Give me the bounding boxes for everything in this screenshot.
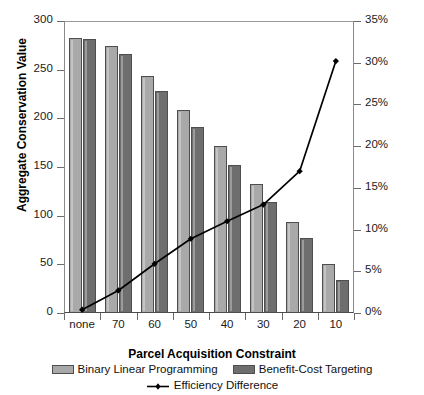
y-axis-right-tick-mark bbox=[354, 21, 361, 22]
y-axis-right-tick-mark bbox=[354, 230, 361, 231]
x-axis-category-label: 70 bbox=[100, 318, 136, 330]
legend-item-efficiency-difference: Efficiency Difference bbox=[146, 378, 278, 393]
legend-item-benefit-cost-targeting: Benefit-Cost Targeting bbox=[233, 362, 373, 377]
line-path bbox=[82, 61, 336, 310]
x-axis-tick-mark bbox=[137, 313, 138, 320]
x-axis-category-label: 20 bbox=[282, 318, 318, 330]
x-axis-category-label: 60 bbox=[137, 318, 173, 330]
legend-swatch-dark-icon bbox=[233, 365, 255, 374]
legend-label-benefit-cost-targeting: Benefit-Cost Targeting bbox=[259, 364, 373, 376]
y-axis-left-tick-mark bbox=[57, 264, 64, 265]
y-axis-left-tick-label: 0 bbox=[47, 305, 54, 317]
x-axis-tick-mark bbox=[100, 313, 101, 320]
y-axis-left-tick-label: 100 bbox=[34, 208, 54, 220]
y-axis-left-tick-label: 150 bbox=[34, 159, 54, 171]
x-axis-tick-mark bbox=[245, 313, 246, 320]
y-axis-left-tick-label: 300 bbox=[34, 13, 54, 25]
line-marker bbox=[333, 58, 339, 64]
x-axis-category-label: 40 bbox=[209, 318, 245, 330]
chart-legend: Binary Linear Programming Benefit-Cost T… bbox=[0, 362, 424, 393]
x-axis-category-label: none bbox=[64, 318, 100, 330]
y-axis-right-tick-mark bbox=[354, 271, 361, 272]
legend-item-binary-linear-programming: Binary Linear Programming bbox=[52, 362, 218, 377]
y-axis-right-tick-mark bbox=[354, 63, 361, 64]
y-axis-right-tick-mark bbox=[354, 188, 361, 189]
x-axis-category-label: 10 bbox=[318, 318, 354, 330]
y-axis-right-tick-label: 0% bbox=[365, 305, 382, 317]
y-axis-left-title: Aggregate Conservation Value bbox=[15, 5, 29, 245]
x-axis-tick-mark bbox=[173, 313, 174, 320]
x-axis-tick-mark bbox=[282, 313, 283, 320]
legend-line-marker-icon bbox=[146, 380, 170, 389]
y-axis-left-tick-label: 200 bbox=[34, 110, 54, 122]
y-axis-right-tick-mark bbox=[354, 104, 361, 105]
y-axis-left-tick-mark bbox=[57, 21, 64, 22]
y-axis-right-tick-label: 35% bbox=[365, 13, 388, 25]
x-axis-category-label: 50 bbox=[173, 318, 209, 330]
line-marker bbox=[224, 218, 230, 224]
y-axis-left-tick-mark bbox=[57, 216, 64, 217]
y-axis-right-tick-label: 15% bbox=[365, 180, 388, 192]
y-axis-right-tick-label: 25% bbox=[365, 96, 388, 108]
legend-label-efficiency-difference: Efficiency Difference bbox=[174, 379, 278, 391]
legend-label-binary-linear-programming: Binary Linear Programming bbox=[78, 364, 218, 376]
efficiency-difference-chart: 050100150200250300 0%5%10%15%20%25%30%35… bbox=[0, 0, 424, 395]
x-axis-category-label: 30 bbox=[245, 318, 281, 330]
x-axis-title: Parcel Acquisition Constraint bbox=[0, 347, 424, 361]
legend-row-bars: Binary Linear Programming Benefit-Cost T… bbox=[0, 362, 424, 378]
y-axis-right-tick-label: 10% bbox=[365, 222, 388, 234]
efficiency-difference-line bbox=[64, 21, 354, 313]
x-axis-tick-mark bbox=[64, 313, 65, 320]
legend-row-line: Efficiency Difference bbox=[0, 378, 424, 394]
x-axis-tick-mark bbox=[354, 313, 355, 320]
y-axis-right-tick-label: 20% bbox=[365, 138, 388, 150]
y-axis-left-tick-label: 250 bbox=[34, 62, 54, 74]
y-axis-right-tick-label: 5% bbox=[365, 263, 382, 275]
x-axis-tick-mark bbox=[318, 313, 319, 320]
y-axis-left-tick-mark bbox=[57, 70, 64, 71]
legend-swatch-light-icon bbox=[52, 365, 74, 374]
y-axis-right-tick-label: 30% bbox=[365, 55, 388, 67]
y-axis-right-tick-mark bbox=[354, 313, 361, 314]
y-axis-right-tick-mark bbox=[354, 146, 361, 147]
line-marker bbox=[79, 307, 85, 313]
y-axis-left-tick-label: 50 bbox=[40, 256, 53, 268]
y-axis-left-tick-mark bbox=[57, 118, 64, 119]
y-axis-left-tick-mark bbox=[57, 313, 64, 314]
x-axis-tick-mark bbox=[209, 313, 210, 320]
y-axis-left-tick-mark bbox=[57, 167, 64, 168]
